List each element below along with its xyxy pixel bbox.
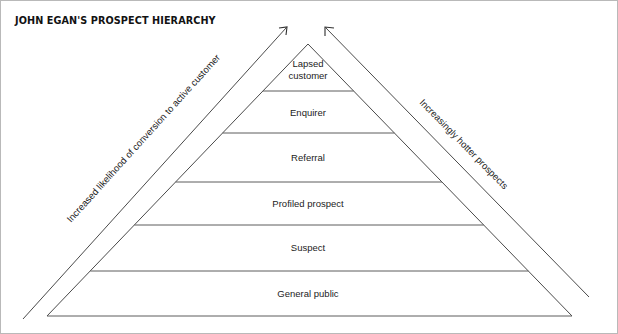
- left-arrow: [23, 27, 287, 319]
- tier-label-profiled-prospect: Profiled prospect: [272, 198, 344, 209]
- tier-label-lapsed-customer-line1: Lapsed: [292, 58, 323, 69]
- left-arrow-shaft: [23, 28, 286, 319]
- tier-label-referral: Referral: [291, 152, 325, 163]
- pyramid-diagram: Lapsed customer Enquirer Referral Profil…: [1, 1, 618, 334]
- tier-label-enquirer: Enquirer: [290, 107, 326, 118]
- right-axis-label: Increasingly hotter prospects: [418, 97, 511, 192]
- tier-label-suspect: Suspect: [291, 242, 326, 253]
- pyramid-left-edge: [47, 44, 308, 316]
- tier-label-general-public: General public: [277, 288, 339, 299]
- tier-labels: Lapsed customer Enquirer Referral Profil…: [272, 58, 344, 299]
- right-arrow-shaft: [326, 28, 589, 297]
- prospect-hierarchy-figure: JOHN EGAN'S PROSPECT HIERARCHY: [0, 0, 618, 334]
- tier-label-lapsed-customer-line2: customer: [288, 70, 327, 81]
- pyramid-right-edge: [308, 44, 572, 316]
- left-axis-label: Increased likelihood of conversion to ac…: [64, 52, 222, 224]
- right-arrow: [325, 27, 589, 297]
